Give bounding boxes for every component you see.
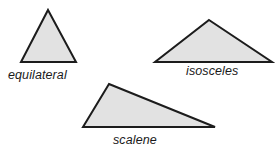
equilateral-label: equilateral bbox=[8, 68, 67, 82]
isosceles-label: isosceles bbox=[186, 64, 238, 78]
equilateral-triangle-shape bbox=[21, 10, 76, 62]
isosceles-triangle-shape bbox=[155, 20, 272, 62]
scalene-label: scalene bbox=[113, 133, 157, 147]
triangle-types-figure: equilateral isosceles scalene bbox=[0, 0, 278, 157]
scalene-triangle-shape bbox=[83, 84, 215, 127]
